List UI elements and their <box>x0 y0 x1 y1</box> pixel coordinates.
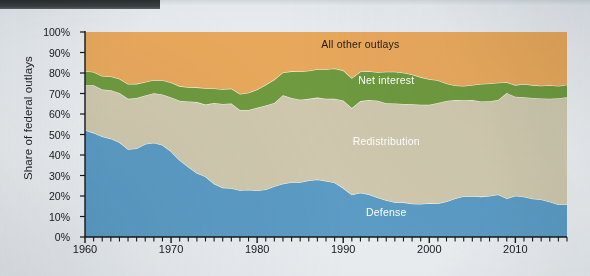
x-tick-label: 1960 <box>73 243 97 255</box>
x-axis-tick-labels: 196019701980199020002010 <box>0 243 590 265</box>
stacked-area-chart: 0%10%20%30%40%50%60%70%80%90%100% 196019… <box>0 0 590 276</box>
series-label-redistribution: Redistribution <box>353 135 420 147</box>
x-tick-label: 1970 <box>159 243 183 255</box>
chart-canvas <box>0 0 590 276</box>
series-label-defense: Defense <box>366 206 407 218</box>
y-tick-label: 0% <box>24 231 70 243</box>
scanned-page: 0%10%20%30%40%50%60%70%80%90%100% 196019… <box>0 0 590 276</box>
series-label-net-interest: Net interest <box>358 74 414 86</box>
x-tick-label: 1980 <box>245 243 269 255</box>
x-tick-label: 2000 <box>417 243 441 255</box>
y-axis-title: Share of federal outlays <box>22 28 34 208</box>
y-tick-label: 10% <box>24 211 70 223</box>
series-label-all-other-outlays: All other outlays <box>321 38 399 50</box>
x-tick-label: 2010 <box>503 243 527 255</box>
x-tick-label: 1990 <box>331 243 355 255</box>
